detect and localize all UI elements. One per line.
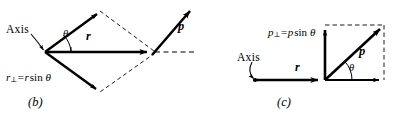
panel-b-caption-text: (b): [28, 95, 43, 109]
panel-b-axis-label: Axis: [6, 24, 29, 36]
physics-figure: Axis r p θ r⊥=rsin θ (b) Axis r p θ p⊥=p…: [0, 0, 401, 123]
panel-b-perp-equation: r⊥=rsin θ: [6, 72, 51, 84]
panel-b-r-label: r: [86, 30, 91, 42]
panel-b-p-vector: [152, 11, 190, 55]
panel-c-caption: (c): [277, 96, 291, 109]
panel-b-p-label: p: [178, 20, 184, 33]
panel-b-perp-expr-fn: sin: [29, 71, 43, 83]
panel-b-dashed-upper-side: [100, 11, 154, 51]
panel-b-axis-pointer-arrow: [31, 34, 44, 50]
panel-b-perp-expr-angle: θ: [45, 71, 50, 83]
panel-c-caption-text: (c): [277, 95, 291, 109]
panel-c-perp-subscript: ⊥: [274, 30, 281, 39]
panel-b-caption: (b): [28, 96, 43, 109]
panel-b-dashed-lower-side: [100, 53, 155, 92]
panel-b-perp-operator: =: [17, 71, 24, 83]
panel-c-axis-label: Axis: [237, 52, 260, 64]
panel-c-perp-expr-fn: sin: [293, 26, 307, 38]
panel-c-p-label: p: [359, 45, 365, 58]
panel-b-graphics: [31, 11, 196, 92]
panel-b-theta-label: θ: [63, 29, 68, 40]
panel-b-r-perp-vector: [45, 52, 96, 89]
panel-c-perp-expr-angle: θ: [310, 26, 315, 38]
panel-c-theta-label: θ: [349, 63, 354, 74]
panel-c-axis-origin-dot: [253, 78, 257, 82]
panel-c-perp-operator: =: [281, 26, 288, 38]
vector-diagram-svg: [0, 0, 401, 123]
panel-c-perp-equation: p⊥=psin θ: [268, 27, 315, 39]
panel-c-axis-pointer-arrow: [250, 62, 254, 79]
panel-c-r-label: r: [295, 61, 300, 73]
